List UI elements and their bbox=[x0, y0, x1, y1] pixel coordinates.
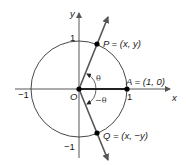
point-P bbox=[94, 41, 99, 46]
x-axis-label: x bbox=[171, 92, 178, 103]
angle-neg-theta-label: −θ bbox=[95, 96, 107, 105]
unit-circle-diagram: y x 1 −1 −1 1 O P = (x, y) A = (1, 0) Q … bbox=[0, 0, 186, 165]
tick-y-pos: 1 bbox=[70, 32, 75, 43]
origin-label: O bbox=[70, 91, 78, 102]
ray-OP bbox=[79, 17, 108, 89]
angle-theta-label: θ bbox=[96, 74, 101, 83]
tick-x-pos: 1 bbox=[127, 91, 132, 102]
angle-theta-arc bbox=[87, 74, 96, 89]
point-A-label: A = (1, 0) bbox=[125, 76, 165, 87]
tick-y-neg: −1 bbox=[64, 141, 75, 152]
point-P-label: P = (x, y) bbox=[103, 38, 141, 49]
point-Q bbox=[94, 130, 99, 135]
point-Q-label: Q = (x, −y) bbox=[103, 130, 148, 141]
tick-x-neg: −1 bbox=[18, 89, 29, 100]
y-axis-label: y bbox=[69, 8, 76, 19]
